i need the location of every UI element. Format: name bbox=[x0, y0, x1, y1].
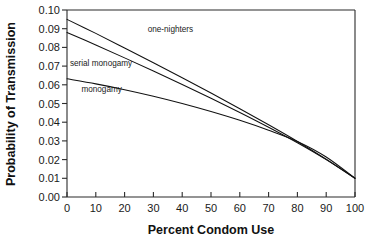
y-tick-label: 0.00 bbox=[39, 191, 60, 203]
y-tick-label: 0.05 bbox=[39, 98, 60, 110]
x-tick-label: 0 bbox=[64, 202, 70, 214]
plot-frame bbox=[67, 10, 355, 197]
transmission-probability-chart: Probability of Transmission 0.10 0.09 0.… bbox=[0, 0, 386, 248]
x-tick-marks bbox=[67, 192, 355, 197]
x-tick-label: 40 bbox=[176, 202, 188, 214]
figure-container: Probability of Transmission 0.10 0.09 0.… bbox=[0, 0, 386, 248]
y-tick-labels: 0.10 0.09 0.08 0.07 0.06 0.05 0.04 0.03 … bbox=[39, 4, 60, 203]
y-tick-label: 0.04 bbox=[39, 116, 60, 128]
x-tick-labels: 0 10 20 30 40 50 60 70 80 90 100 bbox=[64, 202, 364, 214]
x-tick-label: 90 bbox=[320, 202, 332, 214]
y-tick-marks bbox=[62, 10, 67, 197]
x-tick-label: 70 bbox=[262, 202, 274, 214]
y-tick-label: 0.01 bbox=[39, 172, 60, 184]
x-tick-label: 20 bbox=[118, 202, 130, 214]
data-series-group bbox=[67, 19, 355, 178]
series-annotations: one-nighters serial monogamy monogamy bbox=[70, 25, 193, 95]
y-tick-label: 0.06 bbox=[39, 79, 60, 91]
y-tick-label: 0.03 bbox=[39, 135, 60, 147]
x-tick-label: 80 bbox=[291, 202, 303, 214]
x-tick-label: 100 bbox=[346, 202, 364, 214]
y-tick-label: 0.08 bbox=[39, 41, 60, 53]
y-tick-label: 0.10 bbox=[39, 4, 60, 16]
y-axis-title: Probability of Transmission bbox=[4, 22, 18, 186]
series-curve-serial-monogamy bbox=[67, 32, 355, 178]
y-tick-label: 0.07 bbox=[39, 60, 60, 72]
x-tick-label: 60 bbox=[234, 202, 246, 214]
y-tick-label: 0.02 bbox=[39, 154, 60, 166]
series-label-monogamy: monogamy bbox=[81, 85, 122, 94]
series-label-one-nighters: one-nighters bbox=[148, 25, 194, 34]
clipped-caption-text bbox=[0, 242, 386, 248]
series-label-serial-monogamy: serial monogamy bbox=[70, 59, 133, 68]
x-tick-label: 10 bbox=[90, 202, 102, 214]
x-axis-title: Percent Condom Use bbox=[148, 223, 274, 237]
x-tick-label: 50 bbox=[205, 202, 217, 214]
x-tick-label: 30 bbox=[147, 202, 159, 214]
y-tick-label: 0.09 bbox=[39, 23, 60, 35]
